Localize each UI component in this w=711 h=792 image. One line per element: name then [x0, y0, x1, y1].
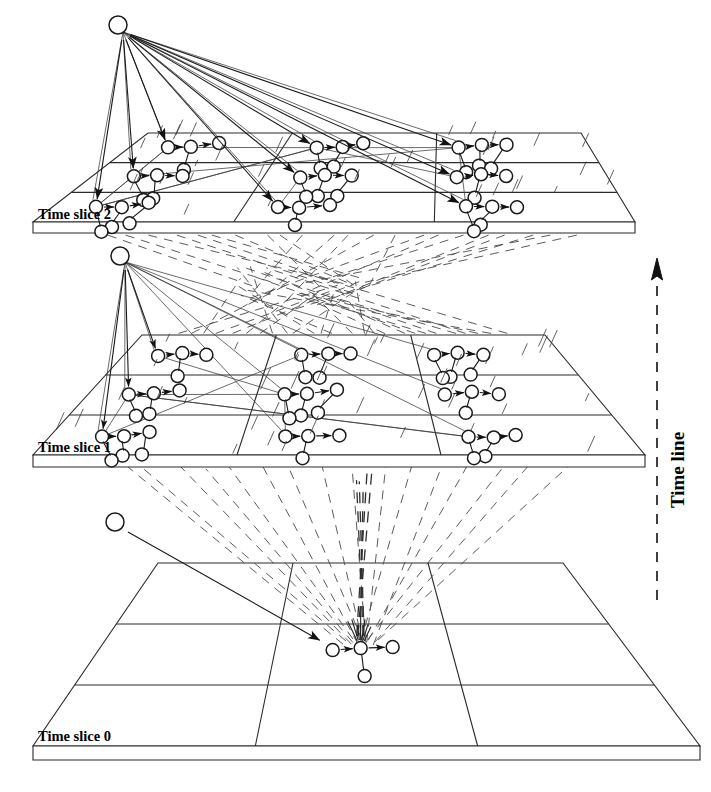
graph-node — [176, 347, 189, 360]
time-axis-arrowhead — [652, 258, 663, 280]
graph-node — [105, 454, 118, 467]
graph-node — [299, 371, 312, 384]
time-link-dashed — [216, 289, 336, 333]
graph-node — [293, 201, 306, 214]
time-link-dashed — [243, 235, 374, 307]
graph-node — [475, 138, 488, 151]
graph-node — [143, 425, 156, 438]
slice-label-0: Time slice 0 — [38, 728, 111, 744]
graph-node — [428, 348, 441, 361]
graph-node — [500, 138, 513, 151]
graph-node — [460, 200, 473, 213]
plane-surface — [33, 563, 700, 746]
time-link-dashed — [297, 294, 426, 333]
graph-node — [171, 370, 184, 383]
graph-node — [467, 225, 480, 238]
graph-node — [143, 407, 156, 420]
graph-node — [278, 388, 291, 401]
time-link-dashed — [212, 235, 364, 279]
graph-edge — [130, 36, 310, 143]
plane-slice0 — [33, 563, 700, 760]
slice-label-2: Time slice 2 — [38, 206, 111, 222]
graph-node — [300, 387, 313, 400]
time-link-dashed — [304, 235, 550, 283]
graph-node — [142, 196, 155, 209]
graph-node — [358, 670, 371, 683]
graph-node — [296, 452, 309, 465]
graph-node — [438, 388, 451, 401]
graph-node — [173, 384, 186, 397]
graph-node — [459, 406, 472, 419]
graph-node — [509, 429, 522, 442]
graph-node — [510, 201, 523, 214]
graph-node — [326, 644, 339, 657]
graph-node — [354, 642, 367, 655]
figure-canvas: Time slice 0 Time slice 1 Time slice 2 T… — [0, 0, 711, 792]
graph-node — [288, 219, 301, 232]
graph-node — [344, 347, 357, 360]
graph-node — [122, 388, 135, 401]
graph-node — [313, 371, 326, 384]
interplane-dashed-1-2 — [108, 235, 577, 333]
time-link-dashed — [325, 235, 464, 279]
graph-node — [386, 641, 399, 654]
time-link-dashed — [366, 235, 395, 292]
time-link-dashed — [237, 268, 287, 334]
graph-node — [475, 168, 488, 181]
graph-node — [333, 429, 346, 442]
apex-fan-edge — [123, 32, 314, 141]
time-link-dashed — [191, 285, 286, 333]
graph-edge — [126, 39, 165, 139]
time-axis: Time line — [652, 258, 689, 600]
time-link-dashed — [234, 284, 314, 334]
graph-node — [152, 349, 165, 362]
graph-node — [95, 225, 108, 238]
graph-edge — [369, 647, 385, 648]
graph-node — [451, 346, 464, 359]
graph-edge — [489, 175, 498, 176]
graph-node — [283, 412, 296, 425]
graph-node — [271, 201, 284, 214]
graph-node — [129, 409, 142, 422]
graph-node — [213, 137, 226, 150]
time-link-dashed — [314, 235, 489, 306]
graph-node — [279, 430, 292, 443]
graph-edge — [466, 353, 476, 354]
graph-node — [465, 385, 478, 398]
graph-node — [294, 171, 307, 184]
apex-node — [109, 16, 127, 34]
graph-node — [302, 430, 315, 443]
graph-node — [330, 383, 343, 396]
graph-node — [492, 388, 505, 401]
graph-edge — [502, 436, 508, 437]
graph-node — [200, 348, 213, 361]
slice-label-1: Time slice 1 — [38, 439, 111, 455]
graph-node — [162, 141, 175, 154]
graph-node — [500, 170, 513, 183]
graph-node — [184, 140, 197, 153]
apex-node — [106, 513, 124, 531]
layered-time-slice-diagram: Time slice 0 Time slice 1 Time slice 2 T… — [0, 0, 711, 792]
time-link-dashed — [245, 235, 424, 300]
graph-node — [450, 171, 463, 184]
graph-node — [452, 141, 465, 154]
graph-node — [135, 448, 148, 461]
graph-node — [336, 140, 349, 153]
graph-node — [464, 368, 477, 381]
time-link-dashed — [126, 235, 278, 284]
graph-node — [468, 452, 481, 465]
time-link-dashed — [177, 235, 360, 295]
apex-fan-edge — [123, 32, 456, 141]
hatch-stub — [470, 122, 475, 134]
plane-thickness — [33, 746, 700, 760]
graph-node — [322, 347, 335, 360]
time-link-dashed — [148, 235, 352, 286]
apex-node — [111, 247, 129, 265]
graph-node — [123, 217, 136, 230]
graph-node — [462, 430, 475, 443]
graph-node — [176, 169, 189, 182]
time-link-dashed — [308, 235, 439, 291]
graph-node — [115, 201, 128, 214]
graph-node — [487, 431, 500, 444]
graph-node — [486, 200, 499, 213]
